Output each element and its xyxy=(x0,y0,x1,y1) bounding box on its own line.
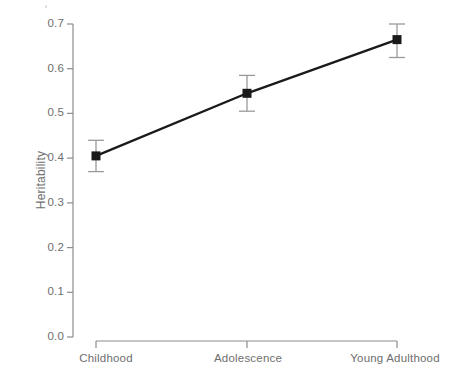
heritability-line-chart: Heritability 0.7 0.6 0.5 0.4 0.3 0.2 0.1… xyxy=(0,0,449,383)
x-tick-label-adolescence: Adolescence xyxy=(214,352,282,364)
y-axis-title: Heritability xyxy=(34,135,48,225)
y-axis xyxy=(67,24,73,337)
y-tick-label-0.1: 0.1 xyxy=(30,285,64,297)
x-tick-label-young-adulthood: Young Adulthood xyxy=(350,352,440,364)
y-tick-label-0.7: 0.7 xyxy=(30,17,64,29)
y-tick-label-0.4: 0.4 xyxy=(30,151,64,163)
data-point-adolescence xyxy=(243,89,252,98)
y-tick-label-0.3: 0.3 xyxy=(30,196,64,208)
x-axis xyxy=(96,341,397,348)
y-tick-label-0.2: 0.2 xyxy=(30,241,64,253)
chart-canvas xyxy=(0,0,449,383)
x-tick-label-childhood: Childhood xyxy=(79,352,133,364)
y-tick-label-0.5: 0.5 xyxy=(30,106,64,118)
data-point-childhood xyxy=(92,151,101,160)
y-tick-label-0.0: 0.0 xyxy=(30,330,64,342)
data-point-young-adulthood xyxy=(393,35,402,44)
y-tick-label-0.6: 0.6 xyxy=(30,62,64,74)
